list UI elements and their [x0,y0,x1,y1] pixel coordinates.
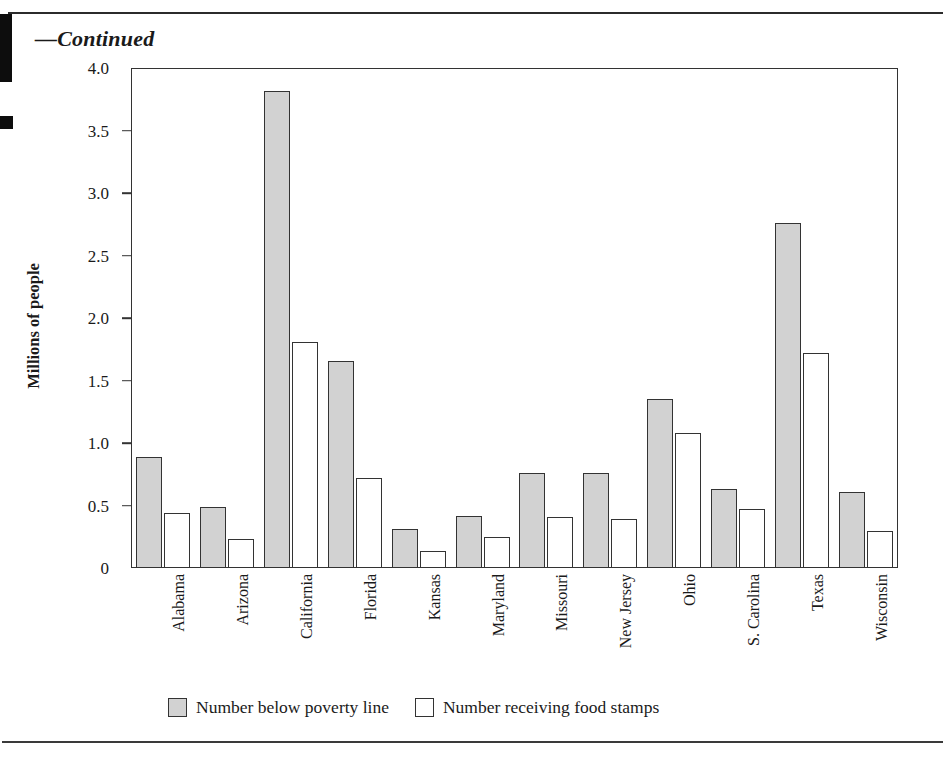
x-tick-label: Florida [362,574,380,620]
bar-poverty [136,457,162,568]
x-tick-label: Alabama [170,574,188,632]
bar-group [519,68,573,568]
y-tick-label: 3.5 [63,122,109,139]
bar-food-stamps [228,539,254,568]
legend-label: Number below poverty line [196,697,389,718]
bar-group [583,68,637,568]
bar-group [711,68,765,568]
bar-poverty [200,507,226,568]
legend-label: Number receiving food stamps [443,697,659,718]
bar-group [775,68,829,568]
x-tick-label: Kansas [426,574,444,620]
y-tick-label: 2.5 [63,247,109,264]
bar-food-stamps [867,531,893,569]
bar-group [200,68,254,568]
y-tick-mark [122,255,131,257]
bar-food-stamps [739,509,765,568]
y-tick-mark [122,192,131,194]
y-tick-mark [122,505,131,507]
bar-group [647,68,701,568]
bar-food-stamps [611,519,637,568]
y-tick-mark [122,380,131,382]
x-tick-label: Missouri [553,574,571,631]
y-tick-label: 0.5 [63,497,109,514]
x-tick-label: California [298,574,316,639]
y-axis-title: Millions of people [24,226,44,426]
x-tick-label: New Jersey [617,574,635,648]
bar-chart: Millions of people 00.51.01.52.02.53.03.… [0,0,943,760]
bar-poverty [647,399,673,568]
chart-legend: Number below poverty lineNumber receivin… [168,697,659,718]
y-tick-mark [122,317,131,319]
y-tick-label: 2.0 [63,310,109,327]
white-outlined-square-icon [415,698,434,717]
bar-food-stamps [292,342,318,568]
bar-food-stamps [803,353,829,568]
bar-group [456,68,510,568]
gray-filled-square-icon [168,698,187,717]
y-tick-mark [122,130,131,132]
x-tick-label: S. Carolina [745,574,763,646]
bar-food-stamps [675,433,701,568]
x-tick-label: Arizona [234,574,252,626]
bar-group [839,68,893,568]
legend-item: Number below poverty line [168,697,389,718]
legend-item: Number receiving food stamps [415,697,659,718]
bars-layer [131,68,898,568]
bar-poverty [264,91,290,569]
bar-poverty [839,492,865,568]
bar-food-stamps [547,517,573,568]
y-tick-label: 3.0 [63,185,109,202]
bar-poverty [456,516,482,569]
bar-poverty [711,489,737,568]
bar-poverty [519,473,545,568]
page-canvas: —Continued Millions of people 00.51.01.5… [0,0,943,760]
bar-group [392,68,446,568]
x-tick-label: Wisconsin [873,574,891,641]
x-tick-label: Maryland [490,574,508,636]
bar-food-stamps [420,551,446,569]
bar-food-stamps [164,513,190,568]
bar-group [136,68,190,568]
bar-poverty [583,473,609,568]
x-tick-label: Texas [809,574,827,611]
bar-poverty [328,361,354,569]
bar-food-stamps [356,478,382,568]
y-tick-label: 0 [63,560,109,577]
y-tick-label: 1.0 [63,435,109,452]
bar-poverty [775,223,801,568]
y-tick-mark [122,442,131,444]
bar-food-stamps [484,537,510,568]
x-tick-label: Ohio [681,574,699,606]
bar-poverty [392,529,418,568]
y-tick-label: 1.5 [63,372,109,389]
x-axis-labels: AlabamaArizonaCaliforniaFloridaKansasMar… [131,568,898,688]
y-axis: Millions of people 00.51.01.52.02.53.03.… [0,0,131,760]
bar-group [264,68,318,568]
y-tick-label: 4.0 [63,60,109,77]
bar-group [328,68,382,568]
